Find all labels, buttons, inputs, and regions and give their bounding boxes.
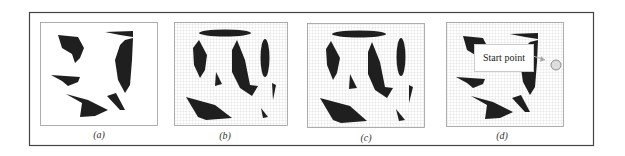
panel-c <box>308 24 425 128</box>
panel-c-border <box>308 24 425 128</box>
panel-b <box>175 23 288 126</box>
panel-a <box>41 23 158 126</box>
start-point-callout: Start point <box>474 44 534 72</box>
panel-b-border <box>175 23 288 126</box>
caption-d: (d) <box>482 130 522 141</box>
caption-b: (b) <box>205 130 245 141</box>
start-marker-icon[interactable] <box>551 60 561 70</box>
panel-d <box>447 23 564 127</box>
caption-c: (c) <box>346 132 386 143</box>
caption-a: (a) <box>79 129 119 140</box>
